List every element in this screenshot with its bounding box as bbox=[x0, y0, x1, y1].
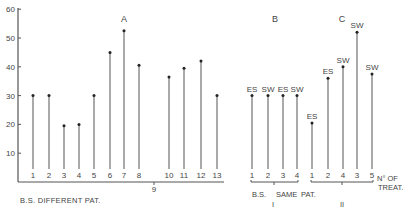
y-tick-label: 30 bbox=[6, 92, 15, 101]
bars bbox=[32, 29, 374, 169]
lollipop-chart: 102030405060 12345678910111213AB.S. DIFF… bbox=[0, 0, 409, 209]
group-label-b: B bbox=[272, 14, 278, 24]
x-tick-label-a: 3 bbox=[62, 171, 67, 180]
point-a-10 bbox=[168, 75, 171, 78]
y-tick-label: 40 bbox=[6, 63, 15, 72]
x-tick-label-a: 13 bbox=[213, 171, 222, 180]
x-tick-label-b: 1 bbox=[250, 171, 255, 180]
annotation-c: ES bbox=[307, 112, 318, 121]
x-tick-label-a: 11 bbox=[180, 171, 189, 180]
x-tick-label-a: 8 bbox=[137, 171, 142, 180]
y-tick-label: 20 bbox=[6, 120, 15, 129]
treat-label-1: N° OF bbox=[377, 174, 398, 183]
x-tick-label-c: 1 bbox=[310, 171, 315, 180]
point-a-6 bbox=[109, 51, 112, 54]
point-b-1 bbox=[251, 94, 254, 97]
x-tick-label-c: 4 bbox=[341, 171, 346, 180]
treat-label-2: TREAT. bbox=[378, 183, 403, 192]
x-axis-title-a: B.S. DIFFERENT PAT. bbox=[20, 196, 101, 205]
point-c-3 bbox=[356, 31, 359, 34]
x-tick-label-a: 6 bbox=[108, 171, 113, 180]
bracket-b bbox=[251, 180, 298, 182]
point-a-5 bbox=[93, 94, 96, 97]
y-tick-label: 10 bbox=[6, 149, 15, 158]
x-tick-label-c: 2 bbox=[326, 171, 331, 180]
labels: 12345678910111213AB.S. DIFFERENT PAT.ES1… bbox=[20, 14, 403, 209]
annotation-c: SW bbox=[337, 56, 350, 65]
x-tick-label-b: 3 bbox=[281, 171, 286, 180]
point-a-7 bbox=[123, 29, 126, 32]
axes: 102030405060 bbox=[6, 5, 373, 185]
x-axis-title-same: SAME bbox=[276, 190, 297, 199]
y-tick-label: 60 bbox=[6, 5, 15, 14]
roman-label-ii: II bbox=[340, 200, 344, 209]
x-tick-label-a: 10 bbox=[165, 171, 174, 180]
annotation-c: SW bbox=[366, 63, 379, 72]
point-c-5 bbox=[371, 73, 374, 76]
point-c-4 bbox=[342, 65, 345, 68]
x-tick-label-a: 5 bbox=[92, 171, 97, 180]
point-a-11 bbox=[183, 67, 186, 70]
x-tick-label-a: 9 bbox=[152, 185, 157, 194]
group-label-c: C bbox=[339, 14, 346, 24]
point-c-1 bbox=[311, 121, 314, 124]
point-a-1 bbox=[32, 94, 35, 97]
x-tick-label-a: 1 bbox=[31, 171, 36, 180]
point-b-4 bbox=[296, 94, 299, 97]
x-tick-label-b: 2 bbox=[266, 171, 271, 180]
point-c-2 bbox=[327, 77, 330, 80]
annotation-b: SW bbox=[262, 85, 275, 94]
x-tick-label-b: 4 bbox=[295, 171, 300, 180]
point-a-8 bbox=[138, 64, 141, 67]
point-a-12 bbox=[200, 60, 203, 63]
y-tick-label: 50 bbox=[6, 34, 15, 43]
annotation-b: SW bbox=[291, 85, 304, 94]
x-tick-label-a: 2 bbox=[47, 171, 52, 180]
x-axis-title-pat: PAT. bbox=[301, 190, 316, 199]
annotation-b: ES bbox=[278, 85, 289, 94]
point-a-2 bbox=[48, 94, 51, 97]
point-a-4 bbox=[78, 123, 81, 126]
group-label-a: A bbox=[121, 14, 127, 24]
x-axis-title-bs: B.S. bbox=[252, 190, 266, 199]
annotation-c: SW bbox=[351, 21, 364, 30]
x-tick-label-a: 12 bbox=[197, 171, 206, 180]
annotation-b: ES bbox=[247, 85, 258, 94]
x-tick-label-c: 5 bbox=[370, 171, 375, 180]
x-tick-label-c: 3 bbox=[355, 171, 360, 180]
point-a-13 bbox=[216, 94, 219, 97]
point-b-3 bbox=[282, 94, 285, 97]
annotation-c: ES bbox=[323, 67, 334, 76]
roman-label-i: I bbox=[272, 200, 274, 209]
bracket-c bbox=[311, 180, 373, 182]
x-tick-label-a: 7 bbox=[122, 171, 127, 180]
point-a-3 bbox=[63, 124, 66, 127]
x-tick-label-a: 4 bbox=[77, 171, 82, 180]
point-b-2 bbox=[267, 94, 270, 97]
